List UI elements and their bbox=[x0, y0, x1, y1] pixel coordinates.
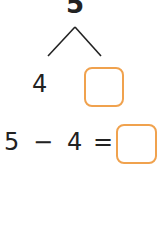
known-part-number: 4 bbox=[32, 72, 47, 96]
unknown-part-answer-box[interactable] bbox=[84, 67, 124, 107]
equation-equals-sign: = bbox=[93, 130, 113, 154]
equation-answer-box[interactable] bbox=[116, 124, 157, 164]
equation-minuend: 5 bbox=[4, 130, 19, 154]
equation-minus-sign: − bbox=[33, 130, 53, 154]
equation-subtrahend: 4 bbox=[67, 130, 82, 154]
